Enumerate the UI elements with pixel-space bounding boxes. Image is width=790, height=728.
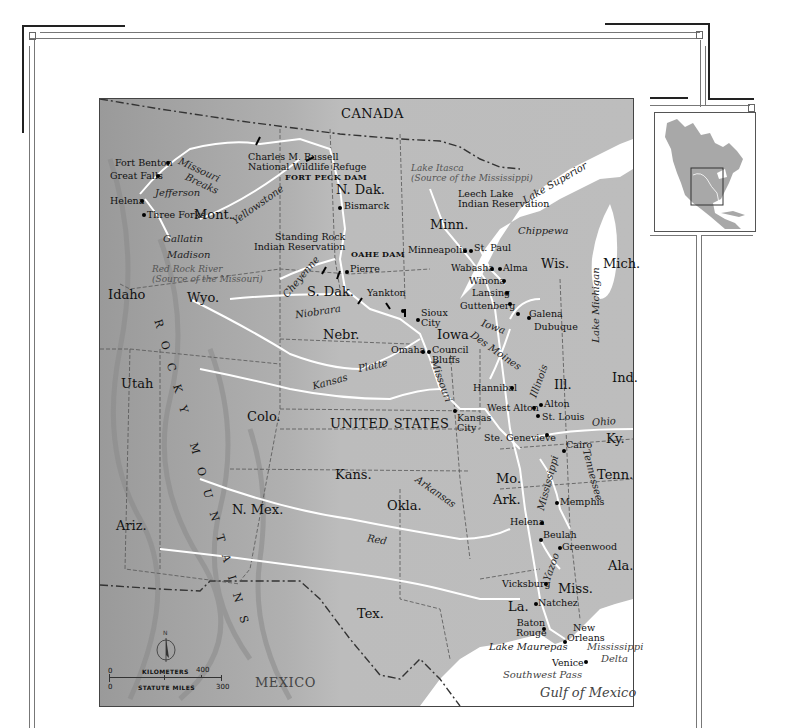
frame-right-thick [708,23,710,99]
map-relief-layer [100,99,633,706]
frame-inset-bottom-2 [701,235,753,236]
frame-right-step [708,98,754,100]
frame-left-inner [29,46,30,728]
frame-right-inner [700,40,701,107]
label-canada: CANADA [341,107,404,120]
frame-right-long-2 [701,235,702,728]
frame-inset-top [650,105,750,106]
label-united-states: UNITED STATES [330,417,449,430]
frame-left-inner-2 [34,40,35,728]
frame-top-inner [40,32,700,33]
map-main: CANADA UNITED STATES MEXICO Mont. N. Dak… [99,98,634,707]
frame-left-thick [22,25,24,133]
frame-top-left-thick [22,25,125,27]
frame-top-right-thick [605,23,709,25]
frame-right-long [696,235,697,728]
frame-corner-box-right [696,31,703,39]
inset-locator-map [654,112,756,232]
frame-right-inner-2 [705,46,706,106]
frame-inset-top-left [650,97,688,99]
frame-corner-box-inset [748,104,755,112]
label-mexico: MEXICO [255,676,316,689]
frame-corner-box-left [29,32,36,40]
frame-top-inner-2 [30,38,700,39]
frame-inset-bottom [650,235,696,236]
north-america-silhouette-icon [655,113,755,231]
